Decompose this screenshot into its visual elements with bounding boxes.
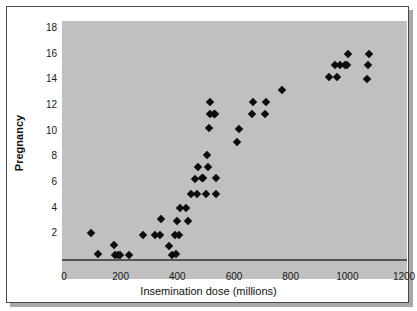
- x-axis-tick-labels: 020040060080010001200: [7, 7, 410, 304]
- x-tick-label: 0: [61, 272, 67, 282]
- x-tick-label: 400: [169, 272, 186, 282]
- x-tick-label: 1200: [393, 272, 415, 282]
- x-tick-label: 1000: [336, 272, 358, 282]
- x-axis-title: Insemination dose (millions): [7, 285, 410, 297]
- x-tick-label: 200: [112, 272, 129, 282]
- y-axis-title: Pregnancy: [13, 88, 25, 198]
- figure-frame: 24681012141618 020040060080010001200 Pre…: [6, 6, 409, 303]
- x-tick-label: 800: [282, 272, 299, 282]
- scatter-plot-figure: 24681012141618 020040060080010001200 Pre…: [0, 0, 417, 311]
- x-tick-label: 600: [226, 272, 243, 282]
